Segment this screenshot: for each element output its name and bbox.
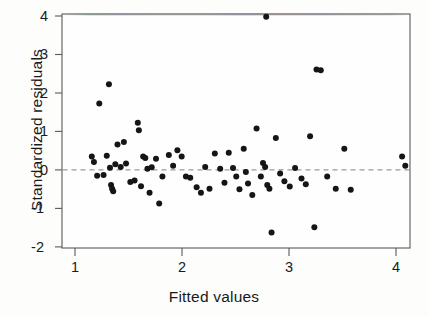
data-point xyxy=(136,127,142,133)
data-point xyxy=(198,190,204,196)
data-point xyxy=(156,201,162,207)
data-point xyxy=(263,14,269,20)
data-point xyxy=(236,186,242,192)
data-point xyxy=(217,166,223,172)
data-point xyxy=(324,174,330,180)
data-point xyxy=(266,186,272,192)
data-point xyxy=(174,147,180,153)
data-point xyxy=(348,187,354,193)
data-point xyxy=(269,229,275,235)
x-tick-label-4: 4 xyxy=(381,259,411,275)
data-point xyxy=(212,150,218,156)
data-point xyxy=(132,177,138,183)
data-point xyxy=(107,165,113,171)
data-point xyxy=(245,180,251,186)
data-point xyxy=(303,181,309,187)
data-point xyxy=(89,154,95,160)
data-point xyxy=(221,180,227,186)
data-point xyxy=(135,120,141,126)
data-point xyxy=(299,175,305,181)
data-point xyxy=(118,164,124,170)
x-axis-title: Fitted values xyxy=(0,288,428,306)
data-point xyxy=(110,188,116,194)
plot-area-background xyxy=(62,14,410,248)
x-tick-label-1: 1 xyxy=(60,259,90,275)
data-point xyxy=(243,169,249,175)
data-point xyxy=(249,192,255,198)
data-point xyxy=(254,125,260,131)
data-point xyxy=(287,184,293,190)
data-point xyxy=(123,160,129,166)
data-point xyxy=(262,164,268,170)
data-point xyxy=(277,170,283,176)
data-point xyxy=(226,150,232,156)
data-point xyxy=(230,165,236,171)
y-axis-title-container: Standardized residuals xyxy=(28,10,48,250)
y-axis-title: Standardized residuals xyxy=(28,49,46,211)
data-point xyxy=(166,152,172,158)
data-point xyxy=(333,186,339,192)
data-point xyxy=(241,146,247,152)
data-point xyxy=(311,224,317,230)
data-point xyxy=(138,183,144,189)
data-point xyxy=(94,173,100,179)
data-point xyxy=(187,175,193,181)
data-point xyxy=(147,190,153,196)
data-point xyxy=(258,174,264,180)
data-point xyxy=(170,163,176,169)
data-point xyxy=(402,163,408,169)
data-point xyxy=(281,178,287,184)
data-point xyxy=(399,154,405,160)
data-point xyxy=(106,81,112,87)
data-point xyxy=(292,165,298,171)
data-point xyxy=(142,155,148,161)
x-tick-label-3: 3 xyxy=(274,259,304,275)
data-point xyxy=(114,142,120,148)
data-point xyxy=(202,164,208,170)
data-point xyxy=(149,164,155,170)
data-point xyxy=(318,67,324,73)
data-point xyxy=(159,174,165,180)
data-point xyxy=(101,172,107,178)
data-point xyxy=(194,184,200,190)
data-point xyxy=(179,154,185,160)
data-point xyxy=(104,153,110,159)
data-point xyxy=(96,100,102,106)
data-point xyxy=(121,139,127,145)
data-point xyxy=(91,159,97,165)
data-point xyxy=(206,186,212,192)
data-point xyxy=(153,156,159,162)
x-tick-label-2: 2 xyxy=(167,259,197,275)
data-point xyxy=(112,161,118,167)
data-point xyxy=(341,146,347,152)
residual-plot-figure: 4 3 2 1 0 -1 -2 1 2 3 4 Fitted values St… xyxy=(0,0,428,317)
data-point xyxy=(307,133,313,139)
data-point xyxy=(273,135,279,141)
y-axis-tick-marks xyxy=(55,16,62,247)
data-point xyxy=(233,174,239,180)
x-axis-tick-marks xyxy=(75,248,396,256)
